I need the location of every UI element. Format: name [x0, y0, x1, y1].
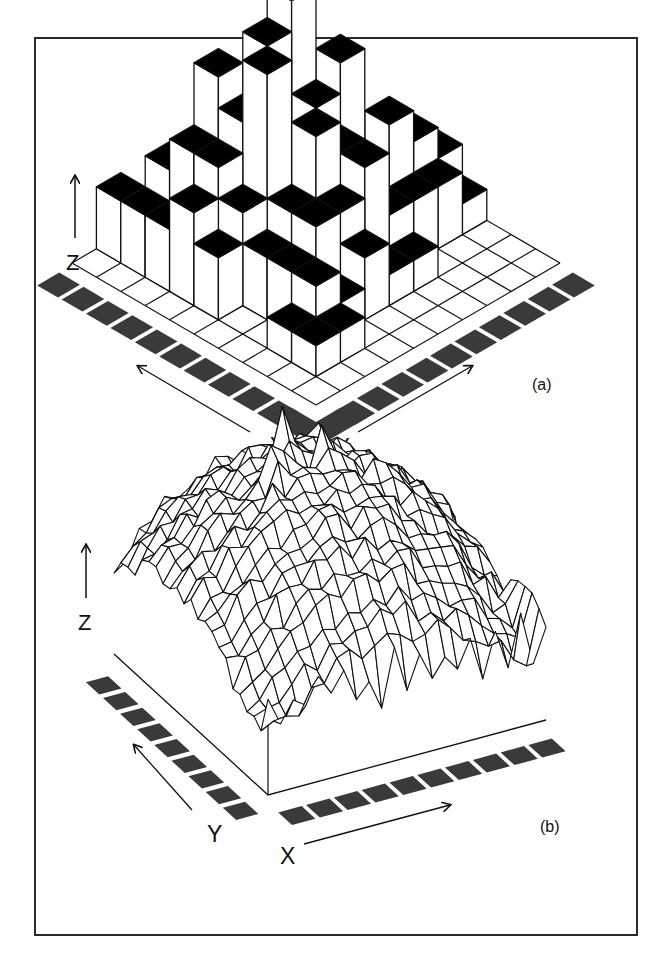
- panel-a-histogram: Z Y X (a): [37, 0, 595, 460]
- base-tile: [445, 761, 482, 780]
- y-axis-arrow-icon: [134, 745, 192, 810]
- bar: [194, 229, 243, 319]
- panel-b-caption: (b): [540, 818, 560, 835]
- base-tile: [389, 776, 426, 795]
- panel-b-surface: Z Y X (b): [78, 407, 566, 870]
- base-tile: [223, 802, 259, 820]
- base-tile: [362, 784, 399, 803]
- base-tile: [206, 786, 242, 804]
- panel-a-bars: [96, 0, 486, 377]
- base-tile: [137, 723, 173, 741]
- base-tile: [103, 692, 139, 710]
- base-tile: [171, 755, 207, 773]
- base-tile: [278, 806, 315, 825]
- panel-a-caption: (a): [532, 376, 552, 393]
- base-tile: [306, 799, 343, 818]
- base-tile: [528, 739, 565, 758]
- base-tile: [473, 754, 510, 773]
- panel-b-base-tiles: [86, 676, 566, 825]
- panel-b-y-label: Y: [207, 821, 222, 847]
- panel-b-z-label: Z: [78, 610, 91, 635]
- panel-a-z-label: Z: [66, 250, 79, 275]
- base-tile: [189, 770, 225, 788]
- figure-canvas: Z Y X (a) Z Y X (b): [0, 0, 662, 964]
- panel-b-x-label: X: [280, 843, 295, 869]
- panel-b-wireframe: [114, 407, 546, 731]
- base-tile: [334, 791, 371, 810]
- base-tile: [501, 746, 538, 765]
- base-tile: [154, 739, 190, 757]
- base-tile: [86, 676, 122, 694]
- base-tile: [120, 708, 156, 726]
- base-tile: [417, 769, 454, 788]
